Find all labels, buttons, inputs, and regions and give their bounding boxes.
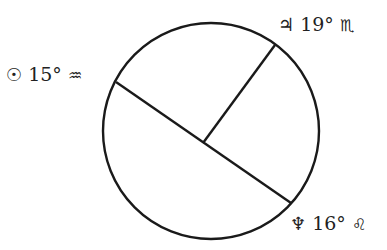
- sun-icon: ☉: [6, 64, 22, 85]
- neptune-label: ♆ 16° ♌: [290, 214, 366, 233]
- jupiter-label: ♃ 19° ♏: [278, 15, 354, 34]
- jupiter-icon: ♃: [278, 14, 294, 35]
- leo-icon: ♌: [352, 215, 366, 234]
- sun-degree: 15°: [28, 63, 62, 85]
- jupiter-degree: 19°: [300, 13, 334, 35]
- neptune-icon: ♆: [290, 213, 306, 234]
- neptune-degree: 16°: [312, 212, 346, 234]
- aquarius-icon: ♒: [68, 66, 82, 85]
- jupiter-line: [203, 45, 275, 143]
- sun-label: ☉ 15° ♒: [6, 65, 82, 84]
- scorpio-icon: ♏: [340, 16, 354, 35]
